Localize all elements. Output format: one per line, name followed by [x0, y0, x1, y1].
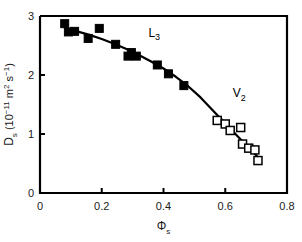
- y-tick-label: 1: [28, 128, 34, 140]
- data-point-marker: [180, 82, 188, 90]
- x-tick-label: 0: [37, 200, 43, 212]
- x-axis-title: Φs: [157, 219, 171, 236]
- data-point-marker: [251, 146, 259, 154]
- y-tick-label: 2: [28, 69, 34, 81]
- data-point-marker: [226, 126, 234, 134]
- data-point-marker: [132, 52, 140, 60]
- data-series-v2: [213, 116, 262, 164]
- data-point-marker: [237, 124, 245, 132]
- series-annotations: L3V2: [148, 26, 245, 103]
- figure-container: 00.20.40.60.8 0123 L3V2 Φs Ds (10−11 m2 …: [0, 0, 302, 242]
- data-point-marker: [153, 61, 161, 69]
- series-annotation-v2: V2: [233, 86, 246, 103]
- x-tick-label: 0.6: [218, 200, 233, 212]
- series-annotation-l3: L3: [148, 26, 160, 43]
- scatter-plot: 00.20.40.60.8 0123 L3V2 Φs Ds (10−11 m2 …: [0, 0, 302, 242]
- y-axis-title: Ds (10−11 m2 s−1): [2, 63, 19, 146]
- x-tick-label: 0.4: [156, 200, 171, 212]
- x-tick-labels: 00.20.40.60.8: [37, 200, 295, 212]
- y-tick-label: 0: [28, 187, 34, 199]
- data-point-marker: [112, 40, 120, 48]
- axes-frame: [40, 16, 287, 193]
- tick-marks: [40, 75, 225, 193]
- x-tick-label: 0.8: [279, 200, 294, 212]
- data-point-marker: [213, 116, 221, 124]
- x-tick-label: 0.2: [94, 200, 109, 212]
- data-point-marker: [84, 34, 92, 42]
- data-point-marker: [254, 157, 262, 165]
- data-series-l3: [61, 20, 188, 90]
- data-point-marker: [61, 20, 69, 28]
- y-axis-title-text: Ds (10−11 m2 s−1): [2, 63, 19, 146]
- y-tick-labels: 0123: [28, 10, 34, 199]
- fit-curve: [65, 28, 260, 160]
- data-point-marker: [164, 70, 172, 78]
- data-point-marker: [71, 27, 79, 35]
- data-point-marker: [95, 24, 103, 32]
- plot-border: [40, 16, 287, 193]
- x-axis-title-text: Φs: [157, 219, 171, 236]
- y-tick-label: 3: [28, 10, 34, 22]
- fit-curve-path: [65, 28, 260, 160]
